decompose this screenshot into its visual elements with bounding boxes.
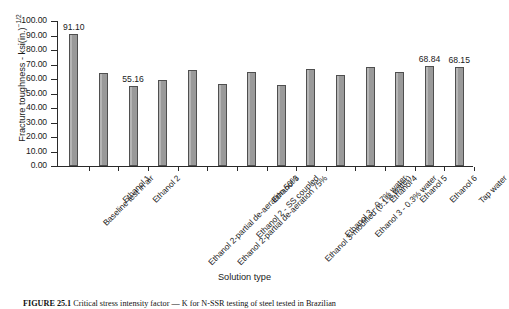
bar-value-label: 55.16 [117,75,149,84]
x-axis-tick [385,167,386,171]
x-axis-tick [355,167,356,171]
figure-caption-text: Critical stress intensity factor — K for… [73,299,336,308]
y-axis-tick-label: 80.00 [26,45,47,54]
x-axis-tick [148,167,149,171]
bar [395,72,404,166]
bar [69,34,78,166]
x-axis-tick [207,167,208,171]
bar [366,67,375,166]
bar [247,72,256,166]
x-axis-title: Solution type [0,272,489,282]
x-axis-category-label: Ethanol 1 [121,173,153,205]
x-axis-category-label: Tap water [477,173,509,205]
x-axis-category-label-text: Tap water [477,173,509,205]
bar-value-label: 91.10 [58,23,90,32]
bar-value-label: 68.84 [414,55,446,64]
y-axis-tick-label: 10.00 [26,147,47,156]
x-axis-tick [326,167,327,171]
x-axis-category-label: Ethanol 2 [150,173,182,205]
y-axis-tick-label: 70.00 [26,60,47,69]
x-axis-tick [267,167,268,171]
x-axis-tick [415,167,416,171]
plot-area [57,21,472,166]
bar [188,70,197,166]
bar [336,75,345,166]
x-axis-category-label-text: Ethanol 6 [447,173,479,205]
x-axis-tick [474,167,475,171]
x-axis-category-label-text: Ethanol 1 [121,173,153,205]
y-axis-tick-label: 50.00 [26,89,47,98]
y-axis-tick [51,166,57,167]
bar [455,67,464,166]
y-axis-tick-label: 100.00 [21,16,47,25]
x-axis-tick [89,167,90,171]
y-axis-tick-label: 20.00 [26,132,47,141]
x-axis-category-label: Ethanol 6 [447,173,479,205]
y-axis-tick-label: 40.00 [26,103,47,112]
x-axis-category-label-text: Ethanol 2 [150,173,182,205]
y-axis-tick-label: 30.00 [26,118,47,127]
bar [158,80,167,166]
figure-caption-number: FIGURE 25.1 [23,299,71,308]
x-axis-tick [118,167,119,171]
x-axis-line [57,166,473,167]
x-axis-tick [178,167,179,171]
y-axis-tick-label: 60.00 [26,74,47,83]
x-axis-tick [237,167,238,171]
bar [306,69,315,166]
figure-caption: FIGURE 25.1 Critical stress intensity fa… [23,299,475,309]
y-axis-tick-label: 0.00 [31,161,47,170]
bar [425,66,434,166]
bar [218,84,227,166]
bar [277,85,286,166]
bar-value-label: 68.15 [443,56,475,65]
bar [99,73,108,166]
x-axis-tick [296,167,297,171]
y-axis-tick-label: 90.00 [26,31,47,40]
x-axis-tick [444,167,445,171]
bar [129,86,138,166]
